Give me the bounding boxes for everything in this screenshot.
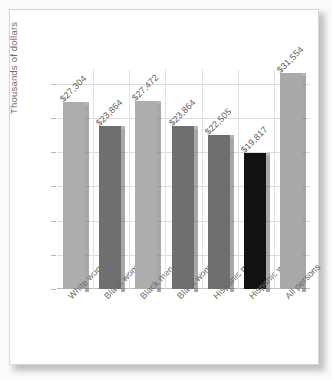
bar-value-label: $23,864: [94, 97, 125, 128]
y-axis-tick: [51, 152, 56, 153]
gridline-vertical: [129, 70, 130, 289]
bar-chart: Thousands of dollars 051015202530$27,304…: [10, 10, 320, 366]
bar-side-shadow: [85, 105, 89, 292]
y-axis-tick: [51, 186, 56, 187]
bar-top-shadow: [157, 101, 161, 104]
bar-value-label: $27,472: [130, 72, 161, 103]
bar-top-shadow: [194, 126, 198, 129]
y-axis-tick: [51, 255, 56, 256]
bar-value-label: $23,864: [166, 97, 197, 128]
bar-top-shadow: [121, 126, 125, 129]
y-axis-tick: [51, 84, 56, 85]
gridline-vertical: [165, 70, 166, 289]
y-axis-label: Thousands of dollars: [8, 22, 19, 114]
bar-fill: [208, 135, 230, 289]
gridline-vertical: [274, 70, 275, 289]
bar-side-shadow: [121, 129, 125, 292]
gridline-horizontal: [57, 84, 310, 85]
bar-fill: [280, 73, 302, 289]
plot-area: 051015202530$27,304White women$23,864Bla…: [57, 70, 310, 289]
bar-top-shadow: [230, 135, 234, 138]
gridline-vertical: [202, 70, 203, 289]
bar[interactable]: [244, 153, 266, 289]
chart-sheet: Thousands of dollars 051015202530$27,304…: [9, 9, 319, 365]
y-axis-tick: [51, 289, 56, 290]
bar-fill: [99, 126, 121, 289]
gridline-vertical: [93, 70, 94, 289]
chart-page: Thousands of dollars 051015202530$27,304…: [0, 0, 332, 380]
bar-top-shadow: [85, 102, 89, 105]
y-axis-tick: [51, 221, 56, 222]
bar-value-label: $22,505: [203, 106, 234, 137]
bar-fill: [63, 102, 85, 289]
bar-side-shadow: [194, 129, 198, 292]
bar-fill: [244, 153, 266, 289]
gridline-vertical: [238, 70, 239, 289]
bar-value-label: $19,817: [239, 125, 270, 156]
y-axis-tick: [51, 118, 56, 119]
bar[interactable]: [280, 73, 302, 289]
bar-side-shadow: [230, 138, 234, 292]
bar-fill: [135, 101, 157, 289]
bar[interactable]: [208, 135, 230, 289]
bar-fill: [172, 126, 194, 289]
bar[interactable]: [63, 102, 85, 289]
bar-top-shadow: [302, 73, 306, 76]
bar-top-shadow: [266, 153, 270, 156]
bar[interactable]: [99, 126, 121, 289]
bar-side-shadow: [157, 104, 161, 292]
bar[interactable]: [172, 126, 194, 289]
bar-side-shadow: [302, 76, 306, 292]
bar-value-label: $31,554: [275, 44, 306, 75]
bar-value-label: $27,304: [58, 74, 89, 105]
bar[interactable]: [135, 101, 157, 289]
